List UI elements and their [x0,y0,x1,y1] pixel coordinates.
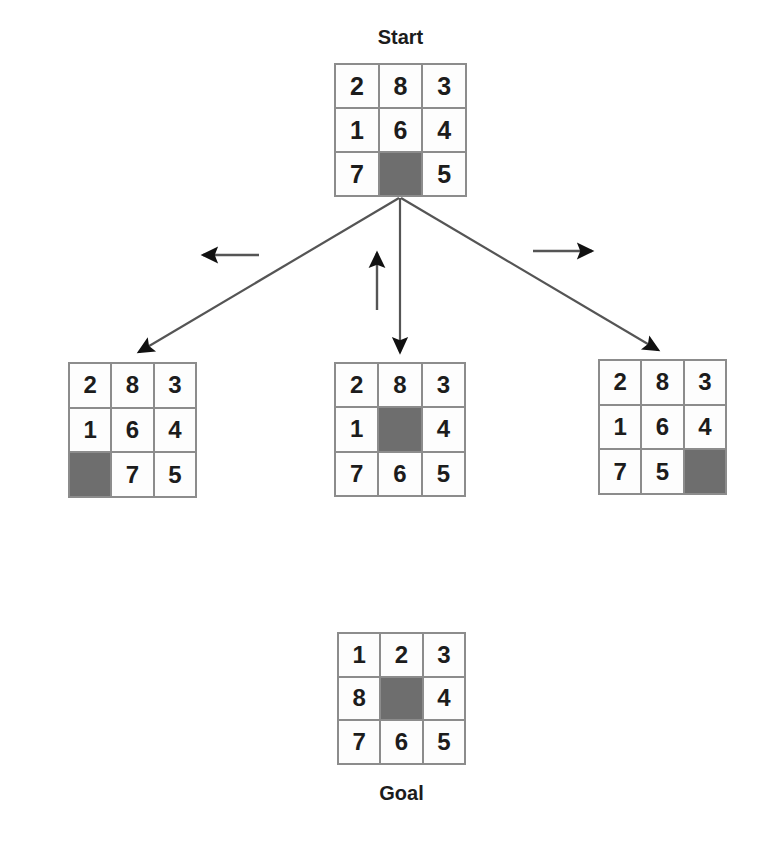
puzzle-cell: 8 [339,678,379,720]
puzzle-cell: 6 [380,109,422,151]
puzzle-cell: 1 [70,409,110,452]
puzzle-cell: 3 [155,364,195,407]
puzzle-cell-blank [685,450,725,493]
puzzle-cell: 3 [423,65,465,107]
puzzle-cell: 8 [379,364,420,406]
puzzle-cell: 3 [424,634,464,676]
edge-start-to-left-child [139,198,399,352]
puzzle-cell-blank [379,408,420,450]
puzzle-cell: 6 [112,409,152,452]
puzzle-cell: 1 [336,109,378,151]
goal-label: Goal [337,782,466,805]
puzzle-cell: 8 [380,65,422,107]
puzzle-cell: 7 [339,721,379,763]
puzzle-cell: 5 [423,153,465,195]
puzzle-cell: 4 [423,109,465,151]
puzzle-cell: 5 [424,721,464,763]
puzzle-grid-start: 2 8 3 1 6 4 7 5 [334,63,467,197]
puzzle-cell: 5 [423,453,464,495]
puzzle-grid-middle-child: 2 8 3 1 4 7 6 5 [334,362,466,497]
puzzle-cell: 6 [379,453,420,495]
puzzle-cell: 2 [70,364,110,407]
puzzle-cell: 8 [642,361,682,404]
puzzle-grid-goal: 1 2 3 8 4 7 6 5 [337,632,466,765]
puzzle-cell: 4 [423,408,464,450]
puzzle-cell: 2 [336,364,377,406]
puzzle-cell: 6 [642,406,682,449]
puzzle-search-tree-diagram: Start 2 8 3 1 6 4 7 5 2 8 3 1 6 4 7 5 2 … [0,0,761,842]
puzzle-cell: 4 [685,406,725,449]
puzzle-cell: 2 [336,65,378,107]
puzzle-cell: 3 [685,361,725,404]
puzzle-grid-left-child: 2 8 3 1 6 4 7 5 [68,362,197,498]
puzzle-cell: 4 [424,678,464,720]
puzzle-grid-right-child: 2 8 3 1 6 4 7 5 [598,359,727,495]
puzzle-cell: 4 [155,409,195,452]
start-label: Start [334,26,467,49]
puzzle-cell: 7 [336,453,377,495]
edge-start-to-right-child [401,198,658,350]
puzzle-cell-blank [380,153,422,195]
puzzle-cell: 8 [112,364,152,407]
puzzle-cell-blank [70,453,110,496]
puzzle-cell: 7 [600,450,640,493]
puzzle-cell: 3 [423,364,464,406]
puzzle-cell: 6 [381,721,421,763]
puzzle-cell: 1 [600,406,640,449]
puzzle-cell: 5 [642,450,682,493]
puzzle-cell: 7 [112,453,152,496]
puzzle-cell: 5 [155,453,195,496]
puzzle-cell: 7 [336,153,378,195]
puzzle-cell: 2 [381,634,421,676]
puzzle-cell: 2 [600,361,640,404]
puzzle-cell-blank [381,678,421,720]
puzzle-cell: 1 [339,634,379,676]
puzzle-cell: 1 [336,408,377,450]
